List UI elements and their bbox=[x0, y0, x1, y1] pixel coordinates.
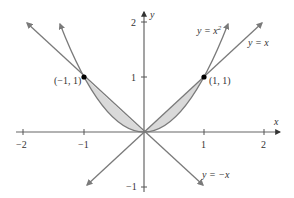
parabola-label: y = x2 bbox=[196, 24, 222, 36]
line-neg-label: y = −x bbox=[201, 169, 230, 180]
y-tick-label-2: 2 bbox=[131, 17, 136, 28]
x-tick-label-2: 2 bbox=[261, 139, 266, 150]
point-1-1 bbox=[201, 74, 206, 79]
y-tick-label-1: 1 bbox=[131, 72, 136, 83]
x-tick-label-neg1: −1 bbox=[78, 139, 89, 150]
diagram-canvas: −2 −1 1 2 1 2 −1 y x y = x2 y = x y = −x… bbox=[0, 0, 294, 198]
x-axis-label: x bbox=[273, 116, 279, 127]
y-axis-label: y bbox=[149, 9, 155, 20]
line-pos-label: y = x bbox=[247, 37, 269, 48]
point-label-1-1: (1, 1) bbox=[209, 75, 231, 87]
x-tick-label-1: 1 bbox=[201, 139, 206, 150]
shaded-region-left bbox=[84, 77, 144, 132]
y-tick-label-neg1: −1 bbox=[126, 181, 137, 192]
point-label-neg1-1: (−1, 1) bbox=[54, 75, 81, 87]
point-neg1-1 bbox=[81, 74, 86, 79]
x-tick-label-neg2: −2 bbox=[16, 139, 27, 150]
